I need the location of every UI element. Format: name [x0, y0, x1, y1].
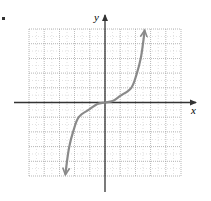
function-graph: x y: [0, 0, 211, 201]
y-axis-label: y: [93, 11, 99, 23]
x-axis-label: x: [190, 104, 196, 116]
